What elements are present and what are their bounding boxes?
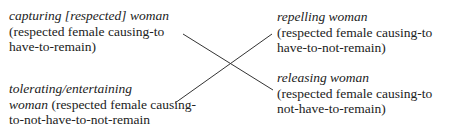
node-title: capturing [respected] woman (9, 8, 169, 23)
node-gloss-line: (respected female causing-to (277, 25, 432, 41)
node-tolerating-woman: tolerating/entertaining woman (respected… (9, 81, 196, 128)
node-gloss-line: (respected female causing-to (9, 24, 169, 40)
node-gloss-line: have-to-not-remain) (277, 40, 432, 56)
node-releasing-woman: releasing woman (respected female causin… (277, 70, 432, 117)
node-title-cont: woman (9, 97, 48, 112)
node-title: repelling woman (277, 9, 368, 24)
node-gloss-line: (respected female causing- (48, 97, 196, 112)
node-gloss-line: (respected female causing-to (277, 86, 432, 102)
node-title: tolerating/entertaining (9, 81, 132, 96)
node-gloss-line: not-have-to-remain) (277, 101, 432, 117)
node-gloss-line: have-to-remain) (9, 39, 169, 55)
node-repelling-woman: repelling woman (respected female causin… (277, 9, 432, 56)
node-gloss-line: to-not-have-to-not-remain (9, 112, 196, 128)
node-title: releasing woman (277, 70, 369, 85)
node-capturing-woman: capturing [respected] woman (respected f… (9, 8, 169, 55)
